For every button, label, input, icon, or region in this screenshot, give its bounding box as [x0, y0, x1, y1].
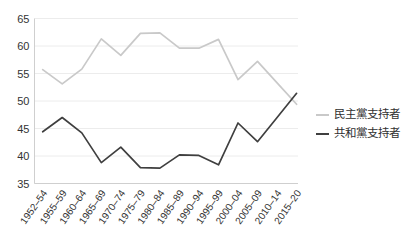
- chart-legend: 民主黨支持者共和黨支持者: [316, 105, 400, 143]
- legend-label: 民主黨支持者: [334, 109, 400, 121]
- series-line-1: [43, 93, 297, 168]
- party-support-line-chart: 354045505560651952–541955–591960–641965–…: [0, 0, 401, 240]
- y-tick-label: 65: [17, 13, 29, 25]
- series-line-0: [43, 33, 297, 105]
- legend-item-0: 民主黨支持者: [316, 105, 400, 124]
- legend-line-icon: [316, 133, 329, 135]
- y-tick-label: 60: [17, 40, 29, 52]
- y-tick-label: 35: [17, 178, 29, 190]
- y-tick-label: 40: [17, 150, 29, 162]
- legend-line-icon: [316, 114, 329, 116]
- legend-label: 共和黨支持者: [334, 128, 400, 140]
- y-tick-label: 50: [17, 95, 29, 107]
- legend-item-1: 共和黨支持者: [316, 124, 400, 143]
- y-tick-label: 55: [17, 68, 29, 80]
- y-tick-label: 45: [17, 123, 29, 135]
